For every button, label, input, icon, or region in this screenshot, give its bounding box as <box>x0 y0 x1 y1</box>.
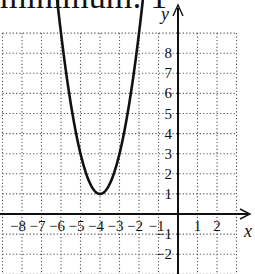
x-tick-label: −8 <box>10 218 26 234</box>
x-tick-label: −5 <box>69 218 85 234</box>
x-tick-label: −7 <box>30 218 46 234</box>
y-tick-label: 2 <box>165 166 173 182</box>
y-tick-label: 3 <box>165 146 173 162</box>
x-tick-label: −3 <box>108 218 124 234</box>
y-tick-label: 7 <box>165 65 173 81</box>
y-tick-label: 8 <box>165 45 173 61</box>
parabola-curve <box>55 0 145 194</box>
y-tick-label: 4 <box>165 126 173 142</box>
y-tick-label: −1 <box>156 226 172 242</box>
y-tick-label: 6 <box>165 85 173 101</box>
y-tick-label: 5 <box>165 106 173 122</box>
x-tick-label: 1 <box>194 218 202 234</box>
x-tick-label: −6 <box>49 218 65 234</box>
y-tick-label: 1 <box>165 186 173 202</box>
x-tick-label: −2 <box>127 218 143 234</box>
y-tick-label: −2 <box>156 246 172 262</box>
x-axis-label: x <box>243 221 252 241</box>
parabola-chart: xy−8−7−6−5−4−3−2−11287654321−1−2 <box>0 0 255 274</box>
y-axis-label: y <box>159 4 169 24</box>
x-tick-label: −4 <box>88 218 104 234</box>
x-tick-label: 2 <box>213 218 221 234</box>
